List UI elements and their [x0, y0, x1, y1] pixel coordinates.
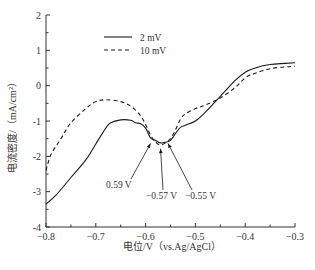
x-tick-label: −0.8 — [37, 231, 55, 242]
y-tick-label: -3 — [33, 186, 41, 197]
legend: 2 mV10 mV — [104, 33, 166, 56]
y-tick-label: -1 — [33, 116, 41, 127]
x-axis-title: 电位/V（vs.Ag/AgCl） — [123, 240, 221, 252]
annotation-label: −0.57 V — [146, 191, 177, 201]
annotations: 0.59 V−0.57 V−0.55 V — [106, 143, 216, 201]
legend-label: 10 mV — [140, 46, 166, 56]
y-axis-ticks: 210-1-2-3-4 — [33, 10, 50, 233]
annotation-arrow — [131, 143, 151, 179]
series-2-mv — [46, 63, 295, 204]
arrowhead-icon — [159, 149, 163, 154]
annotation-label: −0.55 V — [185, 191, 216, 201]
x-tick-label: −0.3 — [286, 231, 304, 242]
x-tick-label: −0.4 — [236, 231, 254, 242]
annotation-arrow — [168, 143, 192, 190]
y-tick-label: 2 — [36, 10, 41, 21]
legend-label: 2 mV — [140, 33, 162, 43]
x-tick-label: −0.7 — [87, 231, 105, 242]
arrowhead-icon — [147, 143, 151, 148]
arrowhead-icon — [168, 143, 172, 148]
y-axis-title: 电流密度/（mA/cm²） — [6, 77, 18, 173]
annotation-arrow — [161, 149, 163, 190]
annotation-label: 0.59 V — [106, 180, 132, 190]
y-tick-label: 0 — [36, 80, 41, 91]
y-tick-label: 1 — [36, 45, 41, 56]
y-tick-label: -2 — [33, 151, 41, 162]
chart-canvas: 210-1-2-3-4 −0.8−0.7−0.6−0.5−0.4−0.3 2 m… — [0, 0, 315, 270]
series-10-mv — [46, 66, 295, 170]
data-series — [46, 63, 295, 204]
x-axis-ticks: −0.8−0.7−0.6−0.5−0.4−0.3 — [37, 223, 304, 242]
